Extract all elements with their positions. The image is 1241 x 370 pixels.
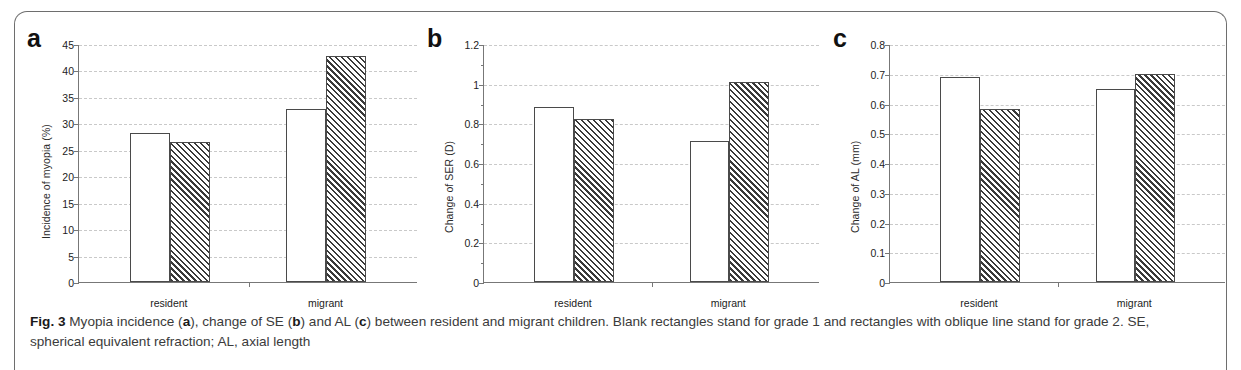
y-tick-label: 20 (62, 171, 74, 183)
y-tick-label: 5 (68, 251, 74, 263)
caption-text-1: Myopia incidence ( (66, 314, 183, 329)
y-tick-label: 0.7 (870, 69, 885, 81)
y-tick-label: 25 (62, 145, 74, 157)
y-tick-mark (479, 204, 484, 205)
caption-figure-number: Fig. 3 (30, 314, 66, 329)
panel-c-y-axis-title: Change of AL (mm) (849, 141, 861, 233)
y-tick-mark (885, 194, 890, 195)
panel-b-letter: b (427, 24, 442, 53)
y-tick-mark (74, 98, 79, 99)
y-tick-label: 0.4 (870, 158, 885, 170)
bar-resident-grade2 (980, 109, 1020, 282)
y-tick-mark (74, 204, 79, 205)
panel-a-y-axis-title: Incidence of myopia (%) (40, 124, 52, 239)
x-axis-center-tick (652, 282, 653, 287)
bar-resident-grade1 (940, 77, 980, 282)
y-tick-label: 45 (62, 39, 74, 51)
caption-text-2: ), change of SE ( (190, 314, 292, 329)
y-tick-label: 1.2 (464, 39, 479, 51)
y-tick-label: 0.3 (870, 188, 885, 200)
x-axis-center-tick (1058, 282, 1059, 287)
panel-b-plot-area: 00.20.40.60.811.2 (483, 45, 819, 283)
y-tick-mark-minor (481, 263, 484, 264)
gridline (484, 45, 819, 46)
panel-b: b Change of SER (D) 00.20.40.60.811.2 re… (421, 11, 821, 301)
bar-resident-grade1 (130, 133, 170, 282)
bar-resident-grade2 (170, 142, 210, 282)
y-tick-mark (74, 45, 79, 46)
y-tick-mark (479, 283, 484, 284)
y-tick-mark-minor (481, 65, 484, 66)
y-tick-mark (74, 230, 79, 231)
panel-b-y-axis-title: Change of SER (D) (443, 141, 455, 233)
x-axis-group-label-migrant: migrant (308, 297, 343, 309)
y-tick-mark (74, 283, 79, 284)
panel-c-plot-area: 00.10.20.30.40.50.60.70.8 (889, 45, 1225, 283)
panel-a-letter: a (27, 24, 40, 53)
y-tick-label: 0.6 (464, 158, 479, 170)
y-tick-label: 0 (879, 277, 885, 289)
y-tick-label: 30 (62, 118, 74, 130)
figure-caption: Fig. 3 Myopia incidence (a), change of S… (30, 312, 1205, 351)
y-tick-mark (885, 283, 890, 284)
y-tick-mark (885, 45, 890, 46)
x-axis-group-label-resident: resident (554, 297, 591, 309)
y-tick-label: 1 (473, 79, 479, 91)
gridline (79, 45, 417, 46)
bar-resident-grade1 (534, 107, 574, 282)
y-tick-mark-minor (481, 144, 484, 145)
y-tick-label: 0.8 (870, 39, 885, 51)
y-tick-mark (479, 45, 484, 46)
y-tick-mark-minor (481, 224, 484, 225)
y-tick-label: 0.6 (870, 99, 885, 111)
y-tick-mark (885, 164, 890, 165)
y-tick-mark (74, 177, 79, 178)
y-tick-label: 0.4 (464, 198, 479, 210)
x-axis-group-label-migrant: migrant (1117, 297, 1152, 309)
y-tick-label: 0.2 (870, 218, 885, 230)
y-tick-mark (885, 224, 890, 225)
caption-label-b: b (292, 314, 300, 329)
bar-migrant-grade1 (690, 141, 730, 282)
panel-a-plot-area: 051015202530354045 (78, 45, 417, 283)
y-tick-label: 10 (62, 224, 74, 236)
y-tick-label: 0 (473, 277, 479, 289)
bar-migrant-grade1 (286, 109, 326, 282)
y-tick-mark (885, 105, 890, 106)
bar-migrant-grade1 (1096, 89, 1136, 282)
y-tick-label: 0.1 (870, 247, 885, 259)
y-tick-mark (74, 151, 79, 152)
bar-migrant-grade2 (326, 56, 366, 282)
y-tick-mark-minor (481, 184, 484, 185)
y-tick-mark (479, 164, 484, 165)
y-tick-label: 0.2 (464, 237, 479, 249)
y-tick-mark-minor (481, 105, 484, 106)
panel-a: a Incidence of myopia (%) 05101520253035… (14, 11, 424, 301)
panel-c: c Change of AL (mm) 00.10.20.30.40.50.60… (827, 11, 1227, 301)
x-axis-group-label-migrant: migrant (711, 297, 746, 309)
x-axis-group-label-resident: resident (150, 297, 187, 309)
y-tick-mark (885, 75, 890, 76)
bar-resident-grade2 (574, 119, 614, 282)
y-tick-mark (479, 124, 484, 125)
y-tick-label: 0 (68, 277, 74, 289)
y-tick-mark (74, 71, 79, 72)
y-tick-label: 15 (62, 198, 74, 210)
y-tick-mark (74, 124, 79, 125)
y-tick-mark (479, 243, 484, 244)
y-tick-mark (479, 85, 484, 86)
panel-c-letter: c (833, 24, 846, 53)
caption-text-3: ) and AL ( (301, 314, 359, 329)
y-tick-label: 40 (62, 65, 74, 77)
y-tick-mark (74, 257, 79, 258)
y-tick-label: 0.5 (870, 128, 885, 140)
gridline (890, 45, 1225, 46)
y-tick-label: 0.8 (464, 118, 479, 130)
x-axis-center-tick (249, 282, 250, 287)
caption-label-c: c (359, 314, 367, 329)
y-tick-label: 35 (62, 92, 74, 104)
y-tick-mark (885, 253, 890, 254)
bar-migrant-grade2 (729, 82, 769, 282)
y-tick-mark (885, 134, 890, 135)
figure-panels: a Incidence of myopia (%) 05101520253035… (14, 11, 1227, 301)
